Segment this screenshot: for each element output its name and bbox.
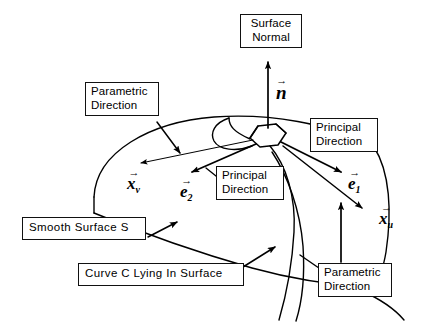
callout-curve-c[interactable]: Curve C Lying In Surface xyxy=(78,263,244,286)
vector-subscript-x-u: u xyxy=(388,219,394,230)
callout-principal-direction-center[interactable]: Principal Direction xyxy=(216,166,284,200)
iso-curve-upper-left xyxy=(229,118,250,139)
leader-curve-c xyxy=(243,247,275,267)
surface-geometry-figure: Surface Normal Parametric Direction Prin… xyxy=(0,0,443,325)
callout-parametric-direction-top-left[interactable]: Parametric Direction xyxy=(85,82,159,116)
vector-symbol-x-v: x xyxy=(127,175,136,192)
leader-principal-center xyxy=(206,168,216,176)
vector-symbol-e2: e xyxy=(180,183,188,200)
vector-symbol-n: n xyxy=(276,83,287,102)
vector-subscript-e1: 1 xyxy=(356,184,361,195)
vector-subscript-x-v: v xyxy=(136,184,140,195)
vector-symbol-e1: e xyxy=(348,175,356,192)
vector-symbol-x-u: x xyxy=(379,210,388,227)
callout-principal-direction-right[interactable]: Principal Direction xyxy=(310,118,378,152)
vector-label-normal: → n xyxy=(276,78,287,102)
hexagon-edge-right xyxy=(276,124,286,133)
callout-parametric-direction-bottom-right[interactable]: Parametric Direction xyxy=(318,263,392,297)
vector-subscript-e2: 2 xyxy=(188,192,193,203)
vector-label-x-v: → xv xyxy=(127,170,140,195)
leader-smooth-surface xyxy=(148,222,177,237)
callout-surface-normal[interactable]: Surface Normal xyxy=(240,14,302,48)
hexagon-edge-left xyxy=(250,126,258,138)
vector-label-e2: → e2 xyxy=(180,178,193,203)
vector-label-x-u: → xu xyxy=(379,205,393,230)
leader-parametric-top-left xyxy=(157,122,180,153)
callout-smooth-surface[interactable]: Smooth Surface S xyxy=(22,217,146,240)
vector-label-e1: → e1 xyxy=(348,170,361,195)
x-v-vector-arrow xyxy=(141,140,253,163)
